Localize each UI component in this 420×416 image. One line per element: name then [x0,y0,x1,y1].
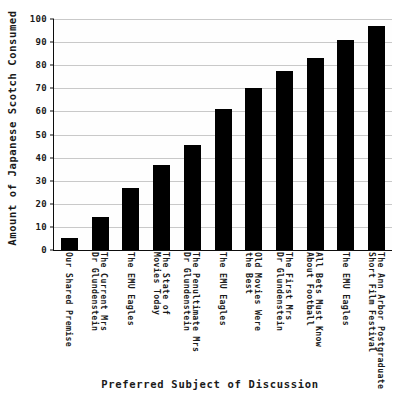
bar [276,71,293,250]
y-tick-label: 40 [36,153,47,163]
x-tick-label: The Ann Arbor Postgraduate Short Film Fe… [366,252,385,389]
y-tick-label: 20 [36,199,47,209]
bar [61,238,78,250]
x-tick-slot: Old Movies Were the Best [237,252,268,364]
bar-chart: Amount of Japanese Scotch Consumed 01020… [0,0,420,416]
bar [92,217,109,250]
bar [368,26,385,250]
bar-slot [85,19,116,250]
y-tick-label: 80 [36,60,47,70]
y-tick-label: 90 [36,37,47,47]
x-tick-label: The EMU Eagles [340,252,349,326]
x-tick-label: The Current Mrs Dr Glundenstein [90,252,109,331]
y-tick-label: 30 [36,176,47,186]
x-axis-title: Preferred Subject of Discussion [0,378,420,390]
bar-slot [54,19,85,250]
x-axis-ticks: Our Shared PremiseThe Current Mrs Dr Glu… [53,252,391,364]
x-tick-slot: The Penultimate Mrs Dr Glundenstein [176,252,207,364]
bar-slot [331,19,362,250]
x-tick-label: Our Shared Premise [64,252,73,347]
x-tick-slot: The EMU Eagles [330,252,361,364]
bar-slot [300,19,331,250]
x-tick-label: The EMU Eagles [217,252,226,326]
y-tick-label: 0 [41,245,47,255]
x-tick-slot: The First Mrs Dr Glundenstein [268,252,299,364]
bar-series [54,19,392,250]
y-axis-title: Amount of Japanese Scotch Consumed [0,0,24,256]
x-tick-label: All Bets Must Know About Football [305,252,324,347]
bar-slot [269,19,300,250]
bar [153,165,170,250]
bar-slot [146,19,177,250]
x-tick-label: Old Movies Were the Best [243,252,262,331]
y-axis-title-text: Amount of Japanese Scotch Consumed [6,10,18,245]
x-tick-label: The EMU Eagles [125,252,134,326]
y-tick-label: 60 [36,106,47,116]
x-tick-slot: Our Shared Premise [53,252,84,364]
y-tick-label: 70 [36,83,47,93]
y-tick-label: 100 [30,14,47,24]
bar-slot [238,19,269,250]
x-tick-slot: The Current Mrs Dr Glundenstein [84,252,115,364]
bar [215,109,232,250]
bar [245,88,262,250]
bar [307,58,324,250]
x-tick-slot: The EMU Eagles [207,252,238,364]
bar [337,40,354,250]
x-tick-slot: The EMU Eagles [114,252,145,364]
bar-slot [361,19,392,250]
x-tick-label: The First Mrs Dr Glundenstein [274,252,293,331]
x-tick-slot: The State of Movies Today [145,252,176,364]
bar-slot [177,19,208,250]
bar-slot [208,19,239,250]
x-tick-label: The Penultimate Mrs Dr Glundenstein [182,252,201,352]
y-axis-ticks: 0102030405060708090100 [24,0,50,260]
x-tick-slot: The Ann Arbor Postgraduate Short Film Fe… [360,252,391,364]
x-tick-label: The State of Movies Today [151,252,170,315]
y-tick-label: 50 [36,130,47,140]
y-tick-label: 10 [36,222,47,232]
x-tick-slot: All Bets Must Know About Football [299,252,330,364]
bar [122,188,139,250]
bar [184,145,201,250]
plot-area [53,19,392,251]
bar-slot [115,19,146,250]
